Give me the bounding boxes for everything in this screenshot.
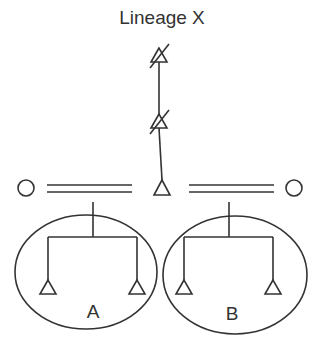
group-label: B (226, 303, 239, 324)
living-male-icon (154, 180, 170, 195)
descent-line (159, 128, 162, 180)
marriage-double-line (189, 185, 274, 192)
child-male-icon (176, 280, 192, 294)
female-spouse-icon (286, 180, 302, 196)
female-spouse-icon (18, 180, 34, 196)
group-b: B (163, 202, 307, 334)
kinship-diagram: Lineage X A (0, 0, 326, 352)
child-male-icon (40, 280, 56, 294)
child-male-icon (129, 280, 145, 294)
group-label: A (87, 301, 100, 322)
child-male-icon (265, 280, 281, 294)
diagram-title: Lineage X (119, 7, 205, 28)
marriage-double-line (47, 185, 132, 192)
group-a: A (15, 202, 157, 329)
